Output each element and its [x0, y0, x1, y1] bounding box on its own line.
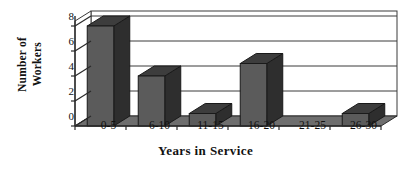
- x-tick-label: 26-30: [334, 120, 394, 132]
- bar: [240, 54, 283, 127]
- bar-side-face: [267, 54, 283, 127]
- bar: [138, 66, 181, 126]
- bar-side-face: [114, 16, 130, 126]
- x-axis-title: Years in Service: [0, 143, 411, 159]
- bar: [87, 16, 130, 126]
- bar-front-face: [87, 26, 114, 126]
- bar-front-face: [240, 64, 267, 127]
- bar-chart: Number of Workers 8 6 4 2 0 0-56-101: [0, 0, 411, 169]
- x-axis-tick-labels: 0-56-1011-1516-2021-2526-30: [75, 120, 411, 138]
